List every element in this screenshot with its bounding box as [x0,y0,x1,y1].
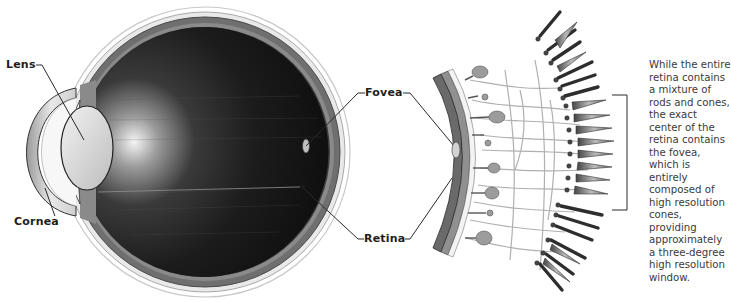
label-retina: Retina [364,233,405,245]
magnified-retina [433,12,614,290]
label-cornea: Cornea [14,216,59,228]
photoreceptors [535,12,614,290]
label-fovea: Fovea [365,87,403,99]
label-lens: Lens [6,59,36,71]
fovea-description: While the entire retina contains a mixtu… [649,59,731,284]
lens-shape [61,106,113,190]
